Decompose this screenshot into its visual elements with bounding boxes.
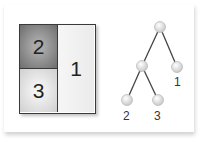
tree-node-internal	[137, 61, 148, 72]
tree-diagram	[0, 0, 210, 147]
tree-node-leaf-3	[153, 95, 164, 106]
tree-label-3: 3	[154, 109, 161, 123]
tree-node-leaf-1	[172, 62, 183, 73]
tree-edges	[127, 27, 177, 100]
tree-node-leaf-2	[122, 95, 133, 106]
tree-node-root	[155, 22, 166, 33]
tree-label-2: 2	[123, 109, 130, 123]
tree-label-1: 1	[174, 75, 181, 89]
